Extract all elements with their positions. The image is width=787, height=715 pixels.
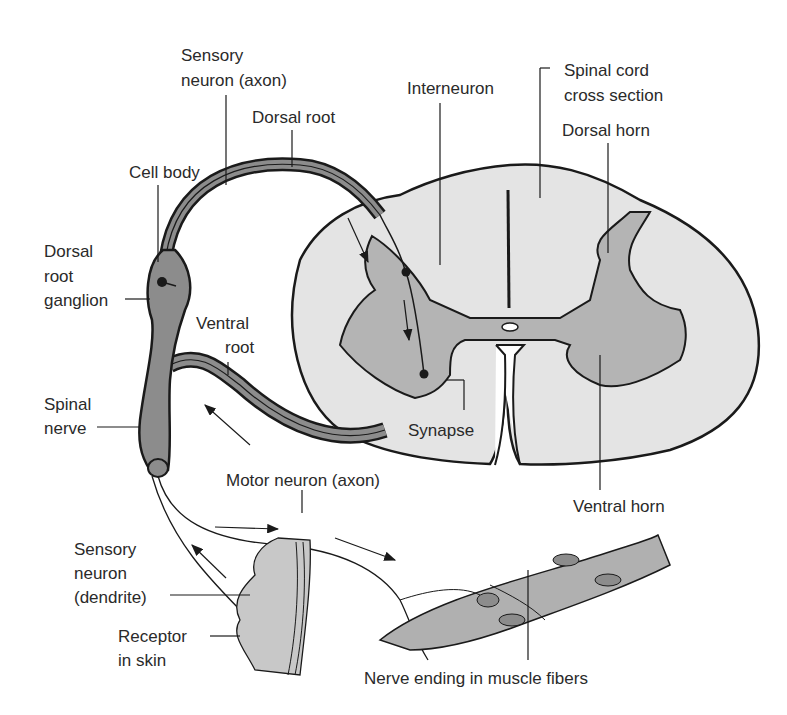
arrow-motor-1 xyxy=(215,527,278,529)
label-dorsal-root: Dorsal root xyxy=(252,108,335,127)
label-sensory-dendrite-2: neuron xyxy=(74,564,127,583)
label-receptor-1: Receptor xyxy=(118,627,187,646)
central-canal xyxy=(502,323,518,331)
muscle-fibers xyxy=(380,535,670,650)
label-sensory-axon-2: neuron (axon) xyxy=(181,71,287,90)
label-synapse: Synapse xyxy=(408,421,474,440)
label-ventral-horn: Ventral horn xyxy=(573,497,665,516)
label-sensory-axon-1: Sensory xyxy=(181,46,244,65)
label-sensory-dendrite-1: Sensory xyxy=(74,540,137,559)
reflex-arc-diagram: Sensory neuron (axon) Dorsal root Cell b… xyxy=(0,0,787,715)
label-interneuron: Interneuron xyxy=(407,79,494,98)
label-cell-body: Cell body xyxy=(129,163,200,182)
arrow-ventral xyxy=(205,405,250,445)
arrow-motor-2 xyxy=(335,538,395,560)
label-nerve-ending: Nerve ending in muscle fibers xyxy=(364,669,588,688)
label-ventral-root-2: root xyxy=(225,338,255,357)
label-spinal-cord-1: Spinal cord xyxy=(564,61,649,80)
skin xyxy=(237,538,311,675)
label-dorsal-horn: Dorsal horn xyxy=(562,121,650,140)
label-drg-3: ganglion xyxy=(44,291,108,310)
spinal-cord-cross-section xyxy=(292,164,759,465)
label-motor-neuron: Motor neuron (axon) xyxy=(226,471,380,490)
arrow-dendrite xyxy=(192,545,226,578)
label-sensory-dendrite-3: (dendrite) xyxy=(74,588,147,607)
label-spinal-nerve-2: nerve xyxy=(44,419,87,438)
spinal-nerve-end xyxy=(148,459,168,477)
label-spinal-cord-2: cross section xyxy=(564,86,663,105)
dorsal-median-sulcus xyxy=(508,190,509,308)
label-spinal-nerve-1: Spinal xyxy=(44,395,91,414)
label-drg-2: root xyxy=(44,267,74,286)
label-drg-1: Dorsal xyxy=(44,242,93,261)
label-ventral-root-1: Ventral xyxy=(196,314,249,333)
label-receptor-2: in skin xyxy=(118,651,166,670)
